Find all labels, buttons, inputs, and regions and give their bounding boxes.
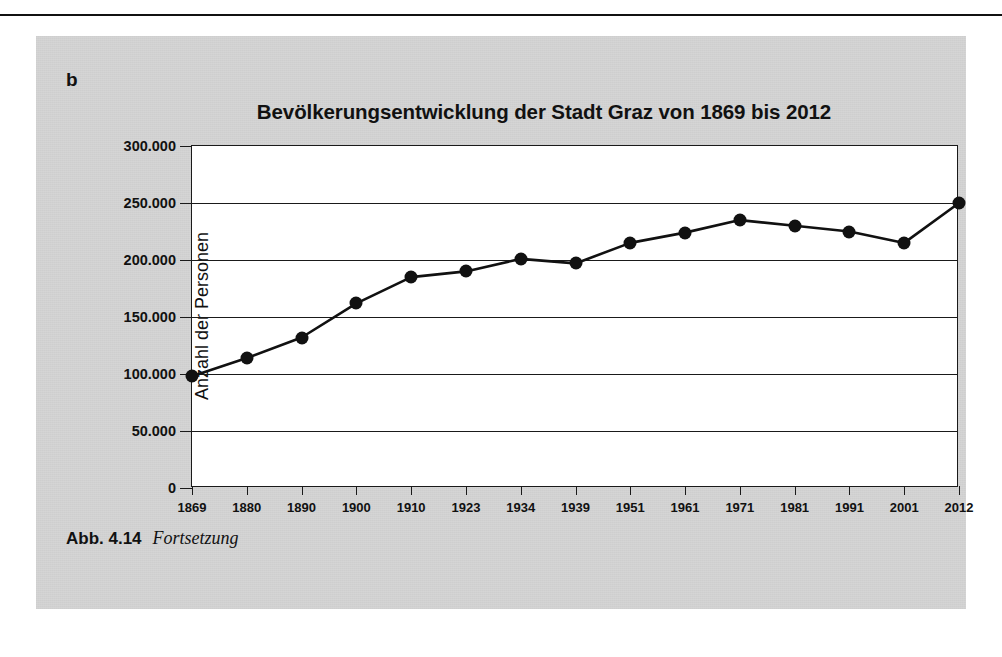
data-point xyxy=(898,236,911,249)
x-axis-tick xyxy=(959,486,960,495)
x-axis-tick-label: 1934 xyxy=(506,500,535,515)
x-axis-tick xyxy=(630,486,631,495)
x-axis-tick-label: 1890 xyxy=(287,500,316,515)
y-axis-tick-label: 300.000 xyxy=(124,138,176,154)
data-point xyxy=(186,370,199,383)
series-line xyxy=(192,146,957,486)
data-point xyxy=(788,219,801,232)
x-axis-tick xyxy=(904,486,905,495)
x-axis-tick-label: 2001 xyxy=(890,500,919,515)
x-axis-tick-label: 1971 xyxy=(725,500,754,515)
chart-area: Anzahl der Personen 050.000100.000150.00… xyxy=(155,145,958,487)
x-axis-tick-label: 2012 xyxy=(945,500,974,515)
y-axis-tick xyxy=(180,431,192,432)
y-axis-tick xyxy=(180,317,192,318)
panel-letter: b xyxy=(66,69,78,91)
x-axis-tick-label: 1951 xyxy=(616,500,645,515)
x-axis-tick xyxy=(466,486,467,495)
y-axis-tick-label: 50.000 xyxy=(132,423,176,439)
x-axis-tick xyxy=(740,486,741,495)
plot-area: Anzahl der Personen 050.000100.000150.00… xyxy=(191,145,958,487)
x-axis-tick xyxy=(411,486,412,495)
x-axis-tick xyxy=(356,486,357,495)
page-top-rule xyxy=(0,14,1002,16)
y-axis-tick-label: 0 xyxy=(168,480,176,496)
x-axis-tick-label: 1939 xyxy=(561,500,590,515)
x-axis-tick xyxy=(685,486,686,495)
x-axis-tick-label: 1961 xyxy=(671,500,700,515)
data-point xyxy=(679,226,692,239)
y-axis-tick xyxy=(180,488,192,489)
x-axis-tick xyxy=(849,486,850,495)
caption-label: Abb. 4.14 xyxy=(66,529,142,548)
y-axis-tick xyxy=(180,146,192,147)
figure-page: b Bevölkerungsentwicklung der Stadt Graz… xyxy=(0,0,1002,657)
data-point xyxy=(459,265,472,278)
x-axis-tick xyxy=(192,486,193,495)
x-axis-tick-label: 1900 xyxy=(342,500,371,515)
y-axis-tick-label: 100.000 xyxy=(124,366,176,382)
data-point xyxy=(295,331,308,344)
x-axis-tick xyxy=(247,486,248,495)
data-point xyxy=(405,271,418,284)
data-point xyxy=(624,236,637,249)
x-axis-tick-label: 1880 xyxy=(232,500,261,515)
x-axis-tick-label: 1981 xyxy=(780,500,809,515)
y-axis-tick-label: 150.000 xyxy=(124,309,176,325)
x-axis-tick-label: 1991 xyxy=(835,500,864,515)
figure-panel: b Bevölkerungsentwicklung der Stadt Graz… xyxy=(36,36,966,609)
data-point xyxy=(569,257,582,270)
data-point xyxy=(733,214,746,227)
x-axis-tick xyxy=(795,486,796,495)
data-point xyxy=(514,252,527,265)
x-axis-tick-label: 1910 xyxy=(397,500,426,515)
data-point xyxy=(953,197,966,210)
x-axis-tick xyxy=(576,486,577,495)
x-axis-tick-label: 1869 xyxy=(178,500,207,515)
x-axis-tick xyxy=(521,486,522,495)
y-axis-tick xyxy=(180,203,192,204)
caption-text: Fortsetzung xyxy=(153,528,239,548)
chart-title: Bevölkerungsentwicklung der Stadt Graz v… xyxy=(36,100,966,124)
figure-caption: Abb. 4.14Fortsetzung xyxy=(66,528,239,549)
data-point xyxy=(240,352,253,365)
data-point xyxy=(350,297,363,310)
y-axis-tick xyxy=(180,260,192,261)
y-axis-tick-label: 200.000 xyxy=(124,252,176,268)
x-axis-tick xyxy=(302,486,303,495)
data-point xyxy=(843,225,856,238)
y-axis-tick-label: 250.000 xyxy=(124,195,176,211)
x-axis-tick-label: 1923 xyxy=(451,500,480,515)
